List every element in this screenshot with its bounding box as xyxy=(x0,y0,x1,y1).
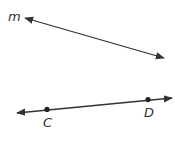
point-c xyxy=(44,107,49,112)
point-d xyxy=(145,97,150,102)
line-m-label: m xyxy=(8,9,21,24)
geometry-diagram: m C D xyxy=(0,0,175,141)
line-m xyxy=(25,18,164,58)
point-d-label: D xyxy=(144,105,154,120)
point-c-label: C xyxy=(43,115,53,130)
